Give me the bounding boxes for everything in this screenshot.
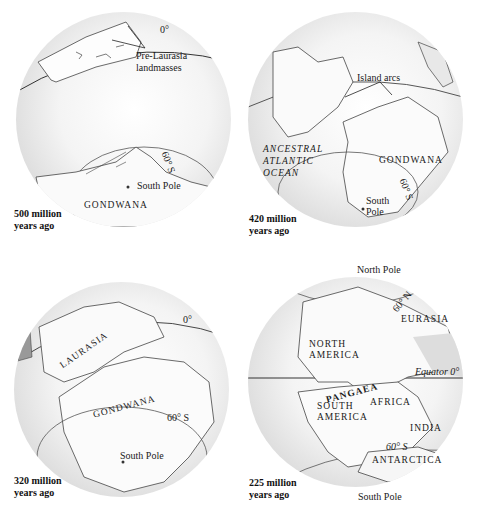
panel-500-mya: 0° Pre-Laurasia landmasses 60° S South P…	[0, 0, 240, 250]
globe-420-mya	[248, 12, 463, 227]
equator-label: 0°	[160, 24, 169, 35]
ancestral-label: ANCESTRAL	[263, 144, 323, 155]
globe-500-mya	[16, 12, 231, 227]
gondwana-label: GONDWANA	[84, 200, 148, 211]
panel-320-mya: 0° LAURASIA GONDWANA 60° S South Pole 32…	[0, 270, 240, 523]
lat-60s-label: 60° S	[167, 412, 189, 423]
lat-60s-label: 60° S	[386, 441, 408, 452]
island-arcs-label: Island arcs	[357, 72, 400, 83]
landmass-outlines	[248, 12, 463, 227]
panel-225-mya: North Pole 60° N EURASIA NORTH AMERICA E…	[240, 255, 485, 523]
africa-label: AFRICA	[370, 397, 411, 408]
landmass-outlines	[14, 282, 229, 497]
south-pole-label: South Pole	[358, 491, 402, 502]
panel-420-mya: Island arcs ANCESTRAL ATLANTIC OCEAN GON…	[240, 0, 485, 250]
age-label-320: 320 million years ago	[14, 475, 62, 499]
south-pole-label: South Pole	[120, 450, 164, 461]
north-america-label-1: NORTH	[309, 339, 346, 350]
equator-label: 0°	[183, 314, 192, 325]
eurasia-label: EURASIA	[401, 314, 449, 325]
landmass-outlines	[16, 12, 231, 227]
south-pole-label: South Pole	[137, 180, 181, 191]
equator-label: Equator 0°	[415, 366, 459, 377]
pre-laurasia-label: Pre-Laurasia	[136, 50, 187, 61]
gondwana-label: GONDWANA	[379, 155, 443, 166]
antarctica-label: ANTARCTICA	[372, 455, 442, 466]
south-label: South	[366, 195, 389, 206]
atlantic-label: ATLANTIC	[263, 156, 314, 167]
south-america-label-1: SOUTH	[317, 401, 354, 412]
globe-320-mya	[14, 282, 229, 497]
landmasses-label: landmasses	[136, 62, 182, 73]
north-america-label-2: AMERICA	[309, 350, 360, 361]
age-label-420: 420 million years ago	[249, 213, 297, 237]
age-label-225: 225 million years ago	[249, 477, 297, 501]
india-label: INDIA	[410, 423, 442, 434]
age-label-500: 500 million years ago	[14, 208, 62, 232]
north-pole-label: North Pole	[357, 264, 401, 275]
pole-label: Pole	[366, 206, 384, 217]
ocean-label: OCEAN	[263, 168, 299, 179]
south-america-label-2: AMERICA	[317, 412, 368, 423]
